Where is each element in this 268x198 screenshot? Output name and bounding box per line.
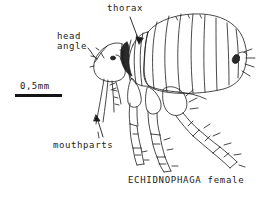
hindleg-tarsus-edge (213, 153, 230, 168)
head-outline (94, 43, 126, 82)
hindleg-tarsus (220, 147, 237, 162)
midleg-tibia (151, 134, 157, 157)
coxa-bristle-3 (190, 108, 198, 109)
spiracle-ridge (239, 52, 247, 55)
label-mouthparts: mouthparts (53, 140, 113, 150)
flea-line-drawing (0, 0, 268, 198)
scale-bar-label: 0,5mm (20, 81, 50, 91)
hindleg-femur-edge (176, 116, 193, 136)
abdomen-segment-5 (204, 15, 205, 92)
scale-bar (15, 94, 62, 97)
palp-joint-2 (114, 97, 118, 98)
midleg-femur (148, 111, 151, 134)
hindleg-bristle-4 (234, 154, 241, 155)
head-angle-crease (101, 53, 104, 58)
coxa-bristle-2 (189, 98, 197, 102)
hindleg-tick-3 (224, 153, 229, 157)
caudal-bristle-3 (245, 64, 254, 67)
label-head-angle-line2: angle (57, 41, 87, 51)
hindleg-coxa (163, 87, 187, 116)
midleg-bristle-1 (164, 138, 170, 140)
midleg-tarsus (157, 157, 164, 172)
palp-joint-3 (115, 104, 119, 105)
dorsal-bristle-1 (176, 17, 178, 20)
hindleg-bristle-2 (213, 133, 220, 136)
foreleg-bristle-1 (142, 151, 147, 152)
label-thorax: thorax (107, 3, 143, 13)
foreleg-tarsus-joint (137, 164, 144, 165)
labial-palp (116, 82, 121, 104)
spiracle (231, 53, 241, 64)
mouthparts-arrowhead (94, 115, 100, 121)
hindleg-claw (239, 165, 245, 167)
label-head-angle-line1: head (57, 31, 81, 41)
head-bristle-1 (96, 48, 99, 50)
midleg-joint-1 (151, 134, 160, 135)
midleg-tarsus-joint (164, 171, 171, 172)
abdomen-segment-3 (178, 14, 181, 93)
abdomen-segment-7 (227, 23, 229, 85)
midleg-femur-edge (157, 113, 160, 135)
eye-ridge (116, 55, 121, 60)
dorsal-bristle-2 (188, 15, 190, 18)
dorsal-bristle-3 (200, 15, 202, 18)
hindleg-tibia (199, 130, 220, 147)
palp-joint-1 (113, 90, 117, 91)
foreleg-femur-edge (137, 107, 138, 126)
hindleg-tibia-edge (193, 136, 213, 153)
midleg-coxa (146, 87, 162, 114)
abdomen-segment-4 (191, 14, 193, 93)
figure-caption: ECHIDNOPHAGA female (128, 175, 244, 185)
abdomen-segment-1 (153, 22, 157, 89)
foreleg-joint-1 (130, 124, 137, 126)
stylet-bristle-2 (111, 88, 116, 90)
abdomen-outline (144, 14, 247, 93)
label-head-angle: headangle (57, 31, 87, 52)
hindleg-joint-1 (193, 130, 199, 136)
foreleg-tibia (130, 124, 133, 148)
abdomen-segment-8 (236, 29, 238, 78)
hindleg-bristle-1 (204, 124, 210, 128)
foreleg-tarsus (133, 148, 137, 165)
foreleg-tarsus-edge (141, 148, 144, 164)
hindleg-bristle-3 (224, 143, 231, 145)
abdomen-segment-6 (216, 18, 217, 90)
abdomen-segment-2 (165, 16, 169, 92)
foreleg-tibia-edge (137, 126, 141, 148)
maxillary-palp (112, 81, 114, 112)
midleg-bristle-2 (167, 149, 173, 150)
flea-anatomy-figure: thorax headangle mouthparts 0,5mm ECHIDN… (0, 0, 268, 198)
caudal-bristle-1 (244, 49, 252, 52)
hindleg-tarsus-joint (230, 162, 237, 168)
hindleg-joint-2 (213, 147, 220, 153)
midleg-tibia-edge (160, 135, 165, 157)
foreleg-femur (129, 103, 130, 124)
stylet-2 (103, 80, 108, 122)
stylet-tip (98, 132, 99, 138)
eye (110, 56, 115, 60)
